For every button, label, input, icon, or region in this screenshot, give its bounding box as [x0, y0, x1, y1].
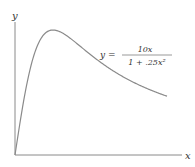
equation-numerator: 10x [138, 45, 153, 54]
x-axis-label: x [185, 150, 191, 161]
equation-denominator: 1 + .25x² [128, 58, 165, 67]
function-plot: y x y = 10x 1 + .25x² [0, 0, 195, 167]
y-axis-label: y [11, 10, 18, 21]
equation-lhs: y = [99, 50, 116, 60]
